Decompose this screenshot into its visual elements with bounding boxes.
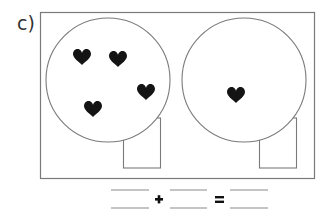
equals-icon [215,196,224,203]
plus-icon [155,195,163,203]
right-circle [182,18,306,142]
worksheet-figure [0,0,330,221]
left-circle [46,18,170,142]
